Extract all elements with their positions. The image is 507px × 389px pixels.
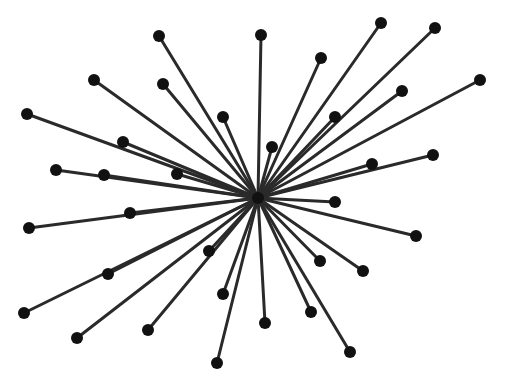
- edge-n34: [258, 198, 350, 352]
- node-n20: [329, 196, 341, 208]
- node-n26: [357, 265, 369, 277]
- node-n6: [157, 78, 169, 90]
- node-n21: [124, 207, 136, 219]
- node-n27: [102, 268, 114, 280]
- node-n8: [474, 74, 486, 86]
- star-graph-diagram: [0, 0, 507, 389]
- node-n31: [259, 317, 271, 329]
- node-n35: [211, 357, 223, 369]
- node-n14: [266, 141, 278, 153]
- node-n22: [23, 222, 35, 234]
- node-n4: [429, 22, 441, 34]
- node-n19: [366, 158, 378, 170]
- node-n28: [217, 288, 229, 300]
- node-n17: [98, 169, 110, 181]
- edges-group: [24, 23, 480, 363]
- node-n25: [314, 255, 326, 267]
- node-n15: [427, 149, 439, 161]
- node-n11: [396, 85, 408, 97]
- node-n33: [71, 332, 83, 344]
- node-n30: [18, 307, 30, 319]
- node-n29: [305, 306, 317, 318]
- hub-node: [252, 192, 264, 204]
- node-n9: [21, 108, 33, 120]
- node-n5: [88, 74, 100, 86]
- node-n32: [142, 324, 154, 336]
- edge-n11: [258, 91, 402, 198]
- edge-n8: [258, 80, 480, 198]
- graph-svg: [0, 0, 507, 389]
- edge-n31: [258, 198, 265, 323]
- node-n2: [255, 29, 267, 41]
- node-n7: [315, 52, 327, 64]
- node-n16: [50, 164, 62, 176]
- node-n23: [410, 230, 422, 242]
- node-n13: [117, 136, 129, 148]
- edge-n7: [258, 58, 321, 198]
- node-n34: [344, 346, 356, 358]
- edge-n2: [258, 35, 261, 198]
- node-n10: [217, 111, 229, 123]
- node-n12: [329, 111, 341, 123]
- node-n3: [375, 17, 387, 29]
- node-n1: [153, 30, 165, 42]
- node-n18: [171, 168, 183, 180]
- node-n24: [203, 245, 215, 257]
